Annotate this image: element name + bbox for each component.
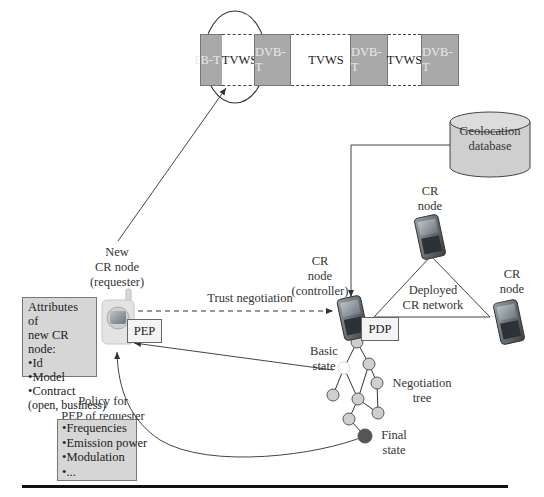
spectrum-band-dvb-2: DVB-T xyxy=(254,34,291,86)
controller-line2: node xyxy=(290,269,350,284)
basic-state-line2: state xyxy=(304,359,344,374)
policy-item: Emission power xyxy=(62,436,132,451)
new-node-line3: (requester) xyxy=(82,275,152,290)
controller-line3: (controller) xyxy=(290,284,350,299)
band-label: DVB-T xyxy=(422,45,458,75)
policy-item: ... xyxy=(62,465,132,480)
db-label-line1: Geolocation xyxy=(452,124,528,139)
new-node-line1: New xyxy=(82,245,152,260)
final-line1: Final xyxy=(374,428,414,443)
spectrum-band-dvb-4: DVB-T xyxy=(421,34,459,86)
tree-node xyxy=(372,407,384,419)
cr-right-line1: CR xyxy=(492,267,532,282)
band-label: TVWS xyxy=(387,53,422,68)
basic-state-line1: Basic xyxy=(304,344,344,359)
geolocation-database-label: Geolocation database xyxy=(452,124,528,154)
policy-title-1: Policy for xyxy=(58,394,148,409)
policy-list: Frequencies Emission power Modulation ..… xyxy=(62,421,132,479)
policy-item: Modulation xyxy=(62,450,132,465)
cr-right-line2: node xyxy=(492,282,532,297)
tree-node xyxy=(327,389,339,401)
negotiation-line1: Negotiation xyxy=(384,376,460,391)
network-line2: CR network xyxy=(400,298,466,313)
policy-item: Frequencies xyxy=(62,421,132,436)
final-state-label: Final state xyxy=(374,428,414,458)
final-line2: state xyxy=(374,443,414,458)
controller-label: CR node (controller) xyxy=(290,254,350,299)
band-label: TVWS xyxy=(222,53,257,68)
tree-node xyxy=(371,377,383,389)
tree-node xyxy=(363,358,375,370)
negotiation-line2: tree xyxy=(384,391,460,406)
attributes-title-1: Attributes of xyxy=(28,300,91,328)
band-label: DVB-T xyxy=(255,45,290,75)
negotiation-tree-label: Negotiation tree xyxy=(384,376,460,406)
network-line1: Deployed xyxy=(400,283,466,298)
new-node-line2: CR node xyxy=(82,260,152,275)
cr-top-line1: CR xyxy=(410,184,450,199)
spectrum-band-tvws-3: TVWS xyxy=(388,34,421,86)
attributes-title-2: new CR node: xyxy=(28,328,91,356)
attribute-item: Id xyxy=(28,356,91,370)
new-cr-node-label: New CR node (requester) xyxy=(82,245,152,290)
request-arrow xyxy=(118,88,226,241)
spectrum-band-dvb-1: DVB-T xyxy=(200,34,223,86)
final-state-node xyxy=(358,429,372,443)
spectrum-band-dvb-3: DVB-T xyxy=(350,34,388,86)
attributes-box: Attributes of new CR node: Id Model Cont… xyxy=(22,297,97,377)
basic-state-label: Basic state xyxy=(304,344,344,374)
band-label: DVB-T xyxy=(200,53,221,68)
cr-node-right-label: CR node xyxy=(492,267,532,297)
deployed-network-label: Deployed CR network xyxy=(400,283,466,313)
band-label: DVB-T xyxy=(351,45,387,75)
cr-top-line2: node xyxy=(410,199,450,214)
tree-node xyxy=(352,393,364,405)
cr-node-top-label: CR node xyxy=(410,184,450,214)
pep-box: PEP xyxy=(127,319,162,343)
attributes-list: Id Model Contract xyxy=(28,356,91,398)
bottom-rule xyxy=(22,485,508,488)
band-label: TVWS xyxy=(308,53,343,68)
cr-node-top-phone-icon xyxy=(414,214,446,260)
controller-line1: CR xyxy=(290,254,350,269)
db-label-line2: database xyxy=(452,139,528,154)
spectrum-band-tvws-1: TVWS xyxy=(222,34,257,86)
pdp-box: PDP xyxy=(361,317,399,341)
attribute-item: Model xyxy=(28,370,91,384)
tree-node xyxy=(343,413,355,425)
cr-node-right-phone-icon xyxy=(493,299,525,345)
policy-box: Frequencies Emission power Modulation ..… xyxy=(57,419,137,481)
